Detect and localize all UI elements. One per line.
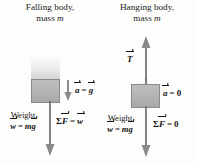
hanging-body-tension-label: T xyxy=(127,54,133,64)
falling-body-acceleration-label: a=g xyxy=(75,85,93,95)
falling-body-acceleration-arrow xyxy=(63,80,73,102)
acceleration-symbol-right: a xyxy=(163,88,168,98)
weight-gravity-left: g xyxy=(32,121,36,132)
diagram-canvas: Falling body, mass m a=g Weight w=mg ΣF=… xyxy=(0,0,197,164)
net-force-equals-right: = xyxy=(167,119,172,129)
acceleration-symbol-left: a xyxy=(75,85,80,95)
net-force-symbol-left: F xyxy=(62,116,68,126)
hanging-body-title-line2: mass m xyxy=(100,13,194,24)
acceleration-equals-left: = xyxy=(82,85,87,95)
tension-symbol: T xyxy=(127,54,133,64)
acceleration-value-right: 0 xyxy=(177,88,182,98)
falling-body-mass-prefix: mass xyxy=(36,13,57,23)
falling-body-net-force-label: ΣF=w xyxy=(56,116,83,126)
weight-symbol-left: w xyxy=(10,121,16,132)
falling-body-weight-arrow xyxy=(44,101,56,157)
hanging-body-weight-label: Weight w=mg xyxy=(98,113,142,134)
falling-body-title-line2: mass m xyxy=(4,13,96,24)
hanging-body-tension-arrow xyxy=(140,36,152,82)
falling-body-title: Falling body, mass m xyxy=(4,2,96,24)
hanging-body-net-force-label: ΣF=0 xyxy=(153,119,179,129)
weight-equals-right: = xyxy=(115,124,120,134)
weight-symbol-right: w xyxy=(107,124,113,135)
weight-equals-left: = xyxy=(18,121,23,131)
falling-body-weight-caption: Weight xyxy=(1,110,45,121)
hanging-body-block xyxy=(131,84,160,108)
hanging-body-mass-prefix: mass xyxy=(133,13,154,23)
weight-gravity-right: g xyxy=(129,124,133,135)
hanging-body-weight-caption: Weight xyxy=(98,113,142,124)
hanging-body-acceleration-label: a=0 xyxy=(163,88,181,98)
falling-body-block xyxy=(31,79,60,103)
hanging-body-title-line1: Hanging body, xyxy=(120,2,174,12)
net-force-equals-left: = xyxy=(70,116,75,126)
gravity-symbol-left: g xyxy=(89,85,94,95)
weight-mass-right: m xyxy=(122,124,129,134)
falling-body-weight-label: Weight w=mg xyxy=(1,110,45,131)
weight-mass-left: m xyxy=(25,121,32,131)
acceleration-equals-right: = xyxy=(170,88,175,98)
net-force-symbol-right: F xyxy=(159,119,165,129)
hanging-body-title: Hanging body, mass m xyxy=(100,2,194,24)
falling-body-title-line1: Falling body, xyxy=(26,2,74,12)
hanging-body-weight-expression: w=mg xyxy=(98,124,142,135)
falling-body-mass-symbol: m xyxy=(57,13,64,23)
net-force-value-right: 0 xyxy=(174,119,179,129)
net-force-value-left: w xyxy=(77,116,83,126)
hanging-body-mass-symbol: m xyxy=(154,13,161,23)
falling-body-weight-expression: w=mg xyxy=(1,121,45,132)
falling-body-motion-trail xyxy=(31,55,60,80)
